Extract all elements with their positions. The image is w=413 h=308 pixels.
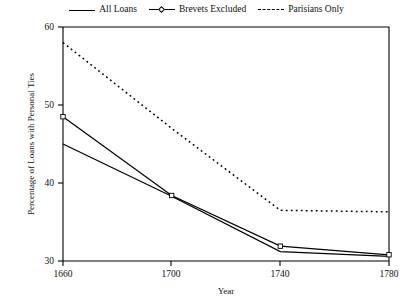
series-path bbox=[63, 43, 389, 212]
series-path bbox=[63, 144, 389, 256]
y-axis-title: Percentage of Loans with Personal Ties bbox=[26, 72, 36, 215]
data-point-marker bbox=[278, 244, 282, 248]
series-layer bbox=[61, 43, 391, 257]
chart-figure: All Loans Brevets Excluded Parisians Onl… bbox=[0, 0, 413, 308]
y-axis-tick-labels: 30 40 50 60 bbox=[45, 22, 55, 266]
series-parisians-only bbox=[63, 43, 389, 212]
y-tick-50: 50 bbox=[45, 100, 55, 110]
chart-svg: 30 40 50 60 1660 1700 1740 1780 Year Per… bbox=[0, 0, 413, 308]
x-tick-1780: 1780 bbox=[380, 269, 399, 279]
x-axis-title: Year bbox=[218, 286, 235, 296]
x-tick-1660: 1660 bbox=[54, 269, 73, 279]
x-axis-ticks bbox=[63, 261, 389, 266]
y-tick-40: 40 bbox=[45, 178, 55, 188]
y-tick-30: 30 bbox=[45, 256, 55, 266]
x-tick-1740: 1740 bbox=[271, 269, 290, 279]
plot-area: 30 40 50 60 1660 1700 1740 1780 Year Per… bbox=[0, 0, 413, 308]
x-tick-1700: 1700 bbox=[162, 269, 181, 279]
series-path bbox=[63, 117, 389, 255]
x-axis-tick-labels: 1660 1700 1740 1780 bbox=[54, 269, 399, 279]
data-point-marker bbox=[61, 115, 65, 119]
axis-frame bbox=[63, 27, 389, 261]
y-axis-ticks bbox=[58, 27, 63, 261]
y-tick-60: 60 bbox=[45, 22, 55, 32]
data-point-marker bbox=[387, 253, 391, 257]
series-all-loans bbox=[63, 144, 389, 256]
data-point-marker bbox=[169, 193, 173, 197]
series-brevets-excluded bbox=[61, 115, 391, 257]
